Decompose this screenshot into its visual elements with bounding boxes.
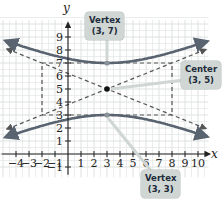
vertex-top-coords: (3, 7) xyxy=(89,26,120,37)
vertex-point xyxy=(104,60,109,65)
vertex-bottom-callout: Vertex (3, 3) xyxy=(141,170,180,198)
x-tick-label: 4 xyxy=(117,157,124,170)
x-tick-label: 9 xyxy=(182,157,189,170)
x-tick-label: 7 xyxy=(156,157,163,170)
x-tick-label: 10 xyxy=(191,157,205,170)
vertex-point xyxy=(104,112,109,117)
vertex-bottom-coords: (3, 3) xyxy=(145,184,176,195)
y-tick-label: 6 xyxy=(56,70,63,83)
y-tick-label: −1 xyxy=(47,161,63,174)
vertex-top-callout: Vertex (3, 7) xyxy=(85,12,124,40)
x-axis-label: x xyxy=(211,147,218,161)
y-tick-label: 1 xyxy=(56,135,63,148)
y-tick-label: 4 xyxy=(56,96,63,109)
center-callout: Center (3, 5) xyxy=(181,61,221,89)
x-tick-label: 8 xyxy=(169,157,176,170)
grid xyxy=(0,18,208,178)
vertex-bottom-title: Vertex xyxy=(145,173,176,184)
y-axis-label: y xyxy=(62,1,70,15)
y-tick-label: 7 xyxy=(56,57,63,70)
y-tick-label: 5 xyxy=(56,83,63,96)
x-tick-label: 2 xyxy=(91,157,98,170)
y-tick-label: 2 xyxy=(56,122,63,135)
x-tick-label: 1 xyxy=(78,157,85,170)
center-point xyxy=(104,86,110,92)
y-tick-label: 8 xyxy=(56,44,63,57)
center-coords: (3, 5) xyxy=(185,75,217,86)
vertex-top-title: Vertex xyxy=(89,15,120,26)
x-tick-label: 5 xyxy=(130,157,137,170)
center-title: Center xyxy=(185,64,217,75)
y-tick-label: 9 xyxy=(56,31,63,44)
x-tick-label: 3 xyxy=(104,157,111,170)
y-tick-label: 3 xyxy=(56,109,63,122)
leader-center xyxy=(111,80,184,89)
lower-branch xyxy=(6,115,208,137)
